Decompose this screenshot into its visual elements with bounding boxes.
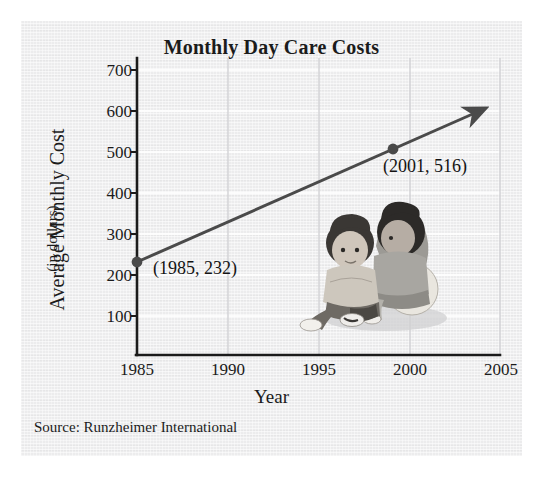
annotation-2001-516: (2001, 516) — [383, 156, 467, 177]
data-point-1985 — [132, 257, 143, 268]
children-illustration — [300, 202, 447, 331]
axis-lines — [136, 58, 500, 355]
source-caption: Source: Runzheimer International — [34, 419, 237, 436]
chart-figure: Monthly Day Care Costs Average Monthly C… — [0, 0, 543, 480]
plot-area — [0, 0, 543, 480]
data-line-trend — [137, 109, 484, 262]
data-point-2001 — [388, 144, 399, 155]
annotation-1985-232: (1985, 232) — [153, 258, 237, 279]
